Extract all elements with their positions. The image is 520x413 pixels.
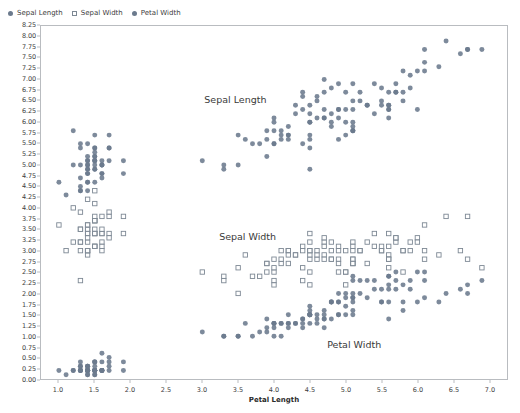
data-point-circle xyxy=(286,312,291,317)
data-point-circle xyxy=(121,171,126,176)
y-axis-tick-label: 5.00 xyxy=(22,161,36,169)
data-point-square xyxy=(351,257,355,261)
x-axis-tick-mark xyxy=(310,380,311,383)
data-point-circle xyxy=(293,111,298,116)
data-point-square xyxy=(336,261,340,265)
x-axis-tick-label: 7.0 xyxy=(485,386,495,394)
data-point-circle xyxy=(300,90,305,95)
data-point-circle xyxy=(329,317,334,322)
data-point-square xyxy=(300,266,304,270)
data-point-circle xyxy=(279,334,284,339)
data-point-square xyxy=(415,236,419,240)
plot-area[interactable]: Sepal LengthSepal WidthPetal Width xyxy=(40,25,508,380)
data-point-circle xyxy=(92,364,97,369)
data-point-circle xyxy=(350,278,355,283)
data-point-circle xyxy=(264,325,269,330)
data-point-circle xyxy=(422,295,427,300)
data-point-square xyxy=(437,253,441,257)
data-point-circle xyxy=(293,321,298,326)
data-point-square xyxy=(93,218,97,222)
data-point-circle xyxy=(322,107,327,112)
data-point-circle xyxy=(257,329,262,334)
data-point-circle xyxy=(315,317,320,322)
legend-item-sepal-width[interactable]: Sepal Width xyxy=(72,9,123,18)
data-point-circle xyxy=(286,321,291,326)
data-point-circle xyxy=(350,300,355,305)
y-axis-tick-label: 2.25 xyxy=(22,279,36,287)
data-point-circle xyxy=(408,73,413,78)
y-axis-tick-label: 7.25 xyxy=(22,64,36,72)
legend-label: Sepal Length xyxy=(17,9,63,18)
data-point-square xyxy=(93,201,97,205)
data-point-circle xyxy=(264,128,269,133)
x-axis-tick-mark xyxy=(274,380,275,383)
data-point-circle xyxy=(99,359,104,364)
data-point-circle xyxy=(264,137,269,142)
data-point-square xyxy=(300,244,304,248)
data-point-circle xyxy=(444,38,449,43)
x-axis-tick-mark xyxy=(94,380,95,383)
data-point-square xyxy=(300,278,304,282)
data-point-circle xyxy=(350,291,355,296)
data-point-circle xyxy=(315,312,320,317)
x-axis-tick-mark xyxy=(490,380,491,383)
y-axis-tick-label: 2.50 xyxy=(22,268,36,276)
data-point-square xyxy=(78,210,82,214)
data-point-square xyxy=(322,236,326,240)
data-point-circle xyxy=(350,128,355,133)
y-axis: 0.000.250.500.751.001.251.501.752.002.25… xyxy=(0,25,40,380)
data-point-circle xyxy=(358,90,363,95)
data-point-circle xyxy=(372,111,377,116)
data-point-square xyxy=(308,248,312,252)
data-point-square xyxy=(458,248,462,252)
data-point-circle xyxy=(322,90,327,95)
data-point-circle xyxy=(56,368,61,373)
data-point-square xyxy=(78,278,82,282)
data-point-circle xyxy=(393,81,398,86)
data-point-circle xyxy=(422,60,427,65)
data-point-circle xyxy=(358,278,363,283)
data-point-circle xyxy=(350,107,355,112)
data-point-circle xyxy=(236,163,241,168)
data-point-square xyxy=(93,189,97,193)
data-point-square xyxy=(85,248,89,252)
legend-item-petal-width[interactable]: Petal Width xyxy=(132,9,181,18)
data-point-circle xyxy=(92,180,97,185)
data-point-circle xyxy=(393,287,398,292)
data-point-circle xyxy=(336,107,341,112)
data-point-circle xyxy=(85,180,90,185)
legend-label: Sepal Width xyxy=(81,9,123,18)
data-point-circle xyxy=(85,188,90,193)
data-point-square xyxy=(93,214,97,218)
data-point-circle xyxy=(272,120,277,125)
data-point-square xyxy=(422,248,426,252)
data-point-square xyxy=(308,283,312,287)
x-axis-tick-mark xyxy=(454,380,455,383)
data-point-circle xyxy=(279,133,284,138)
x-axis-tick-label: 4.0 xyxy=(269,386,279,394)
data-point-square xyxy=(107,214,111,218)
data-point-circle xyxy=(85,364,90,369)
data-point-square xyxy=(329,240,333,244)
legend-item-sepal-length[interactable]: Sepal Length xyxy=(8,9,63,18)
data-point-circle xyxy=(415,270,420,275)
data-point-square xyxy=(222,278,226,282)
data-point-circle xyxy=(307,137,312,142)
data-point-circle xyxy=(99,163,104,168)
data-point-square xyxy=(93,244,97,248)
data-point-square xyxy=(85,227,89,231)
data-point-circle xyxy=(200,158,205,163)
data-point-circle xyxy=(272,141,277,146)
data-point-circle xyxy=(92,133,97,138)
data-point-square xyxy=(358,248,362,252)
data-point-square xyxy=(315,248,319,252)
data-point-circle xyxy=(336,291,341,296)
data-point-circle xyxy=(78,145,83,150)
data-point-circle xyxy=(365,103,370,108)
y-axis-tick-label: 6.50 xyxy=(22,96,36,104)
data-point-square xyxy=(336,270,340,274)
data-point-circle xyxy=(250,334,255,339)
data-point-square xyxy=(372,244,376,248)
data-point-square xyxy=(100,244,104,248)
data-point-circle xyxy=(121,158,126,163)
